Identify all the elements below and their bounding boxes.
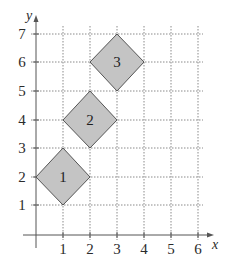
svg-text:3: 3: [113, 241, 121, 257]
svg-text:1: 1: [18, 197, 26, 213]
svg-text:7: 7: [18, 26, 26, 42]
diamond-2-label: 2: [86, 112, 94, 128]
svg-text:2: 2: [86, 241, 94, 257]
diamond-3-label: 3: [113, 54, 121, 70]
svg-text:5: 5: [18, 83, 26, 99]
y-axis-label: y: [24, 8, 33, 23]
y-axis-arrow-icon: [34, 15, 39, 22]
y-tick-labels: 1 2 3 4 5 6 7: [18, 26, 26, 213]
coordinate-diagram: 1 2 3 1 2 3 4 5 6 1 2 3 4 5 6 7 x y: [0, 0, 225, 271]
x-axis-label: x: [211, 237, 219, 252]
svg-text:4: 4: [140, 241, 148, 257]
svg-text:2: 2: [18, 169, 26, 185]
svg-text:5: 5: [167, 241, 175, 257]
svg-text:4: 4: [18, 112, 26, 128]
x-tick-labels: 1 2 3 4 5 6: [59, 241, 202, 257]
svg-text:6: 6: [18, 54, 26, 70]
svg-text:3: 3: [18, 140, 26, 156]
svg-text:1: 1: [59, 241, 67, 257]
svg-text:6: 6: [194, 241, 202, 257]
diamond-1-label: 1: [59, 169, 67, 185]
